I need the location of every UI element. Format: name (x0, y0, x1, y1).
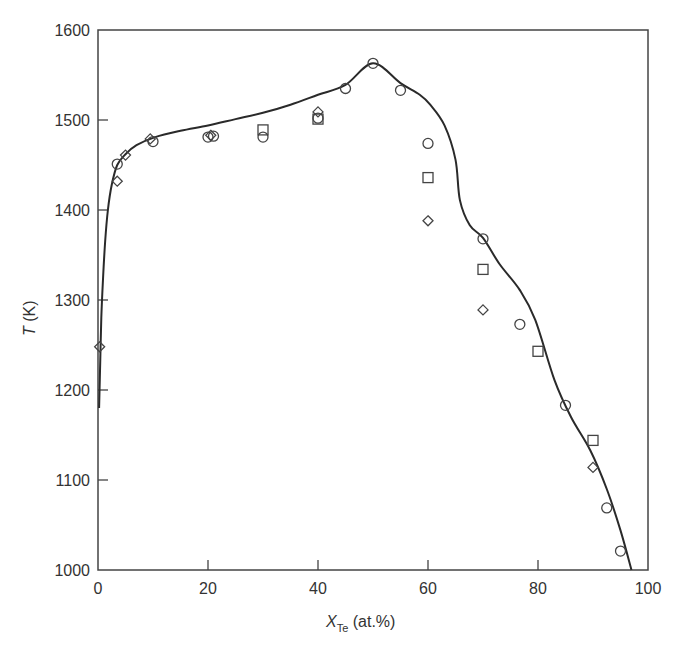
y-tick-label: 1500 (54, 112, 90, 129)
y-tick-label: 1300 (54, 292, 90, 309)
square-point (533, 346, 543, 356)
x-tick-label: 0 (94, 580, 103, 597)
series-layer (95, 58, 632, 570)
x-axis-title: XTe (at.%) (325, 613, 395, 634)
liquidus-curve (99, 63, 631, 570)
y-ticks: 1000110012001300140015001600 (54, 22, 108, 579)
chart: 020406080100 100011001200130014001500160… (0, 0, 674, 649)
circle-point (515, 319, 525, 329)
circle-point (423, 138, 433, 148)
circle-point (616, 546, 626, 556)
x-tick-label: 100 (635, 580, 662, 597)
x-tick-label: 40 (309, 580, 327, 597)
y-axis-title-suffix: (K) (21, 300, 38, 326)
y-tick-label: 1000 (54, 562, 90, 579)
axes (98, 30, 648, 570)
x-axis-title-subscript: Te (337, 622, 349, 634)
circle-point (602, 503, 612, 513)
circle-point (258, 132, 268, 142)
x-tick-label: 80 (529, 580, 547, 597)
x-ticks: 020406080100 (94, 560, 662, 597)
y-axis-title: T (K) (21, 300, 38, 336)
circle-point (396, 85, 406, 95)
x-tick-label: 60 (419, 580, 437, 597)
x-axis-title-suffix: (at.%) (348, 613, 395, 630)
square-point (588, 435, 598, 445)
square-point (423, 173, 433, 183)
y-tick-label: 1600 (54, 22, 90, 39)
diamond-point (478, 305, 488, 315)
diamond-point (423, 216, 433, 226)
plot-frame (98, 30, 648, 570)
square-point (478, 264, 488, 274)
y-tick-label: 1100 (56, 472, 91, 489)
y-tick-label: 1400 (54, 202, 90, 219)
x-tick-label: 20 (199, 580, 217, 597)
y-tick-label: 1200 (54, 382, 90, 399)
